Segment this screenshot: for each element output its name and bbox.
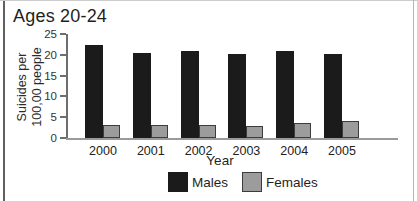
x-tick-label-2000: 2000 [79,145,127,158]
bar-females-2004 [294,123,311,138]
y-tick-label: 25 [31,29,57,41]
y-tick-mark [60,116,66,118]
bar-males-2005 [324,54,342,138]
females-swatch [242,172,262,192]
legend-item-females: Females [242,172,318,192]
legend-label-males: Males [192,175,228,190]
x-tick-label-2001: 2001 [127,145,175,158]
legend-item-males: Males [168,172,228,192]
bar-males-2001 [133,53,151,138]
y-tick-label: 10 [31,91,57,103]
y-tick-label: 20 [31,50,57,62]
bar-females-2003 [246,126,263,138]
bar-males-2003 [228,54,246,138]
panel-top-border [0,0,417,1]
y-tick-mark [60,95,66,97]
chart-title: Ages 20-24 [13,6,107,27]
bar-females-2005 [342,121,359,138]
y-tick-mark [60,75,66,77]
y-tick-label: 15 [31,71,57,83]
panel-right-border [413,0,414,201]
y-tick-label: 5 [31,112,57,124]
bar-males-2000 [85,45,103,138]
x-axis-title: Year [190,153,250,168]
y-tick-mark [60,137,66,139]
bar-females-2002 [199,125,216,138]
bar-females-2000 [103,125,120,138]
bar-males-2002 [181,51,199,138]
chart-panel: Ages 20-24 Suicides per 100,00 people 05… [0,0,417,201]
males-swatch [168,172,188,192]
bar-males-2004 [276,51,294,138]
y-tick-label: 0 [31,133,57,145]
y-tick-mark [60,33,66,35]
x-tick-label-2005: 2005 [318,145,366,158]
y-axis-line [66,34,68,138]
panel-left-border [3,0,5,201]
legend: Males Females [168,172,318,192]
plot-area: 0510152025200020012002200320042005 [68,34,398,138]
x-tick-label-2004: 2004 [270,145,318,158]
bar-females-2001 [151,125,168,138]
legend-label-females: Females [266,175,318,190]
y-tick-mark [60,54,66,56]
x-axis-line [66,138,398,140]
